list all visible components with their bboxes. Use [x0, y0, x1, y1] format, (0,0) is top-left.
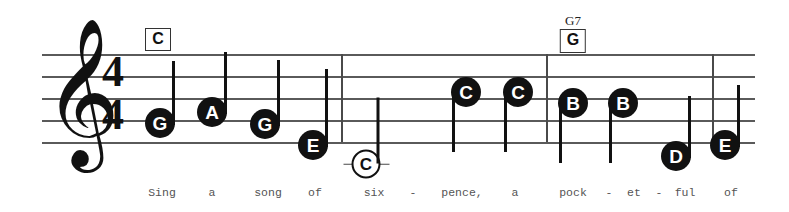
lyric-syllable: Sing: [148, 186, 176, 199]
lyric-syllable: -: [656, 186, 663, 199]
notehead-letter: B: [558, 88, 588, 118]
lyric-syllable: six: [364, 186, 385, 199]
lyric-syllable: -: [606, 186, 613, 199]
note-g-n3[interactable]: G: [250, 109, 280, 139]
lyric-syllable: a: [512, 186, 519, 199]
sheet-music-canvas: 𝄞 4 4 CG7G GAGECCCBBDE Singasongofsix-pe…: [0, 0, 789, 212]
lyric-syllable: of: [308, 186, 322, 199]
note-stem: [325, 69, 328, 147]
chord-name-text: G7: [560, 14, 586, 28]
lyric-syllable: et: [627, 186, 641, 199]
notehead-letter: A: [197, 97, 227, 127]
notehead-letter: D: [661, 141, 691, 171]
time-signature-beat-type: 4: [92, 93, 134, 136]
note-stem: [688, 96, 691, 158]
notehead-letter: E: [710, 130, 740, 160]
note-a-n2[interactable]: A: [197, 97, 227, 127]
chord-box-letter: C: [145, 28, 171, 51]
note-stem: [172, 61, 175, 125]
notehead-letter: C: [503, 77, 533, 107]
time-signature-beats: 4: [92, 50, 134, 93]
lyric-syllable: song: [254, 186, 282, 199]
lyric-syllable: a: [209, 186, 216, 199]
staff-line-1: [42, 54, 755, 56]
notehead-letter: G: [250, 109, 280, 139]
notehead-letter: B: [608, 88, 638, 118]
note-stem: [737, 85, 740, 147]
lyric-syllable: pence,: [441, 186, 482, 199]
note-stem: [224, 52, 227, 114]
note-c-n7[interactable]: C: [503, 77, 533, 107]
note-e-n4[interactable]: E: [298, 130, 328, 160]
time-signature: 4 4: [92, 50, 134, 136]
chord-symbol-C[interactable]: C: [145, 28, 171, 51]
staff-line-2: [42, 76, 755, 78]
barline-1: [341, 54, 343, 142]
chord-box-letter: G: [560, 29, 586, 52]
notehead-letter: C: [451, 77, 481, 107]
lyric-syllable: -: [410, 186, 417, 199]
chord-symbol-G7[interactable]: G7G: [560, 14, 586, 53]
note-stem: [504, 90, 507, 152]
note-b-n9[interactable]: B: [608, 88, 638, 118]
lyric-syllable: ful: [675, 186, 696, 199]
notehead-letter: E: [298, 130, 328, 160]
note-stem: [452, 90, 455, 152]
barline-2: [546, 54, 548, 142]
lyric-syllable: pock: [559, 186, 587, 199]
lyric-syllable: of: [724, 186, 738, 199]
note-b-n8[interactable]: B: [558, 88, 588, 118]
note-d-n10[interactable]: D: [661, 141, 691, 171]
notehead-letter: G: [145, 108, 175, 138]
barline-end: [712, 54, 714, 142]
note-g-n1[interactable]: G: [145, 108, 175, 138]
staff-line-5: [42, 142, 755, 144]
note-stem: [609, 101, 612, 163]
note-c-n5[interactable]: C: [352, 150, 381, 179]
note-e-n11[interactable]: E: [710, 130, 740, 160]
staff-line-3: [42, 98, 755, 100]
note-stem: [277, 60, 280, 126]
note-c-n6[interactable]: C: [451, 77, 481, 107]
note-stem: [377, 98, 380, 164]
note-stem: [559, 101, 562, 163]
notehead-letter: C: [352, 150, 381, 179]
